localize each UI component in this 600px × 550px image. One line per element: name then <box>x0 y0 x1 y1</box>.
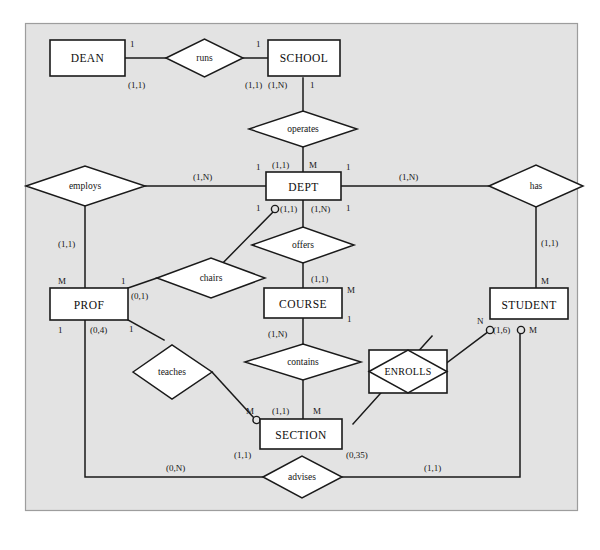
connectivity-dean-runs: 1 <box>130 39 135 49</box>
cardinality-dept-operates: (1,1) <box>272 160 289 170</box>
cardinality-section-enrolls: (0,35) <box>346 450 368 460</box>
optionality-circle-dept-chairs <box>271 205 278 212</box>
relationship-has-label: has <box>530 181 543 191</box>
entity-dean-label: DEAN <box>71 52 105 64</box>
cardinality-dean-runs: (1,1) <box>128 80 145 90</box>
connectivity-dept-employs: 1 <box>256 162 261 172</box>
relationship-chairs-label: chairs <box>200 273 223 283</box>
entity-prof-label: PROF <box>74 299 104 311</box>
cardinality-course-offers: (1,1) <box>311 274 328 284</box>
cardinality-school-runs: (1,1) <box>245 80 262 90</box>
cardinality-student-has: (1,1) <box>541 238 558 248</box>
entity-dean[interactable]: DEAN <box>50 40 125 76</box>
optionality-circle-student-advises <box>517 326 524 333</box>
cardinality-section-teaches: (1,1) <box>234 450 251 460</box>
cardinality-section-contains: (1,1) <box>272 406 289 416</box>
relationship-offers-label: offers <box>292 240 314 250</box>
cardinality-student-advises: (1,1) <box>424 463 441 473</box>
optionality-circle-section-teaches <box>253 416 260 423</box>
connectivity-course-offers: M <box>347 285 355 295</box>
cardinality-dept-offers: (1,N) <box>311 204 330 214</box>
connectivity-prof-advises: 1 <box>58 325 63 335</box>
associative-entity-enrolls[interactable]: ENROLLS <box>369 350 447 393</box>
connectivity-dept-chairs: 1 <box>256 203 261 213</box>
entity-dept-label: DEPT <box>288 181 318 193</box>
associative-entity-enrolls-label: ENROLLS <box>384 366 431 377</box>
relationship-operates-label: operates <box>287 124 319 134</box>
er-diagram-figure: DEAN SCHOOL DEPT PROF COURSE STUDENT <box>0 0 600 550</box>
connectivity-student-has: M <box>541 276 549 286</box>
connectivity-dept-operates: M <box>309 160 317 170</box>
connectivity-course-contains: 1 <box>347 314 352 324</box>
cardinality-student-enrolls: (1,6) <box>493 325 510 335</box>
entity-course-label: COURSE <box>279 298 327 310</box>
entity-student[interactable]: STUDENT <box>490 288 568 319</box>
connectivity-section-contains: M <box>313 406 321 416</box>
relationship-runs-label: runs <box>196 53 213 63</box>
connectivity-prof-teaches: 1 <box>129 324 134 334</box>
cardinality-prof-advises: (0,N) <box>166 463 185 473</box>
connectivity-student-advises: M <box>529 325 537 335</box>
connectivity-dept-has: 1 <box>346 162 351 172</box>
entity-section[interactable]: SECTION <box>260 419 342 449</box>
entity-section-label: SECTION <box>275 429 327 441</box>
connectivity-school-operates: 1 <box>310 80 315 90</box>
relationship-contains-label: contains <box>287 357 319 367</box>
entity-school[interactable]: SCHOOL <box>268 40 340 76</box>
relationship-teaches-label: teaches <box>158 367 186 377</box>
cardinality-dept-chairs: (1,1) <box>280 204 297 214</box>
connectivity-student-enrolls: N <box>477 316 484 326</box>
entity-dept[interactable]: DEPT <box>266 172 341 200</box>
entity-school-label: SCHOOL <box>280 52 328 64</box>
relationship-advises-label: advises <box>288 472 316 482</box>
entity-prof[interactable]: PROF <box>50 288 128 320</box>
connectivity-prof-employs: M <box>58 276 66 286</box>
cardinality-prof-employs: (1,1) <box>58 239 75 249</box>
relationship-employs-label: employs <box>69 181 101 191</box>
er-diagram-canvas: DEAN SCHOOL DEPT PROF COURSE STUDENT <box>0 0 600 550</box>
connectivity-section-teaches: M <box>246 406 254 416</box>
connectivity-runs-school: 1 <box>256 39 261 49</box>
cardinality-prof-teaches: (0,4) <box>90 325 107 335</box>
entity-course[interactable]: COURSE <box>264 288 342 318</box>
cardinality-prof-chairs: (0,1) <box>131 291 148 301</box>
cardinality-school-operates: (1,N) <box>268 80 287 90</box>
connectivity-dept-offers: 1 <box>346 203 351 213</box>
connectivity-prof-chairs: 1 <box>121 276 126 286</box>
entity-student-label: STUDENT <box>501 299 556 311</box>
cardinality-dept-employs: (1,N) <box>193 172 212 182</box>
cardinality-course-contains: (1,N) <box>268 329 287 339</box>
cardinality-dept-has: (1,N) <box>399 172 418 182</box>
